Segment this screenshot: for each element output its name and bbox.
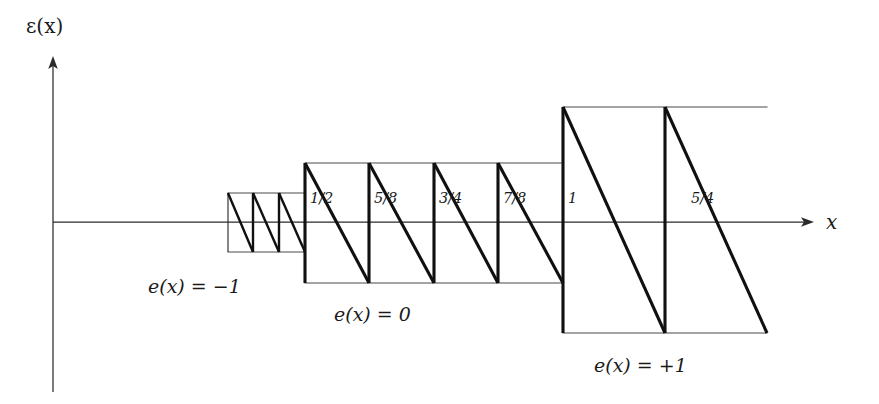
sawtooth-binade-plus-1 (563, 107, 767, 333)
figure-container: ε(x) x 1/2 5/8 3/4 7/8 1 5/4 e(x) = −1 e… (0, 0, 879, 404)
tick-label-5-4: 5/4 (691, 191, 714, 206)
tooth-zero-c (434, 163, 498, 283)
tick-label-3-4: 3/4 (439, 191, 462, 206)
axes-group (48, 56, 814, 392)
tick-label-1: 1 (568, 191, 577, 206)
tooth-plus1-b (665, 107, 767, 333)
tooth-zero-a (305, 163, 369, 283)
tooth-zero-b (369, 163, 434, 283)
tooth-plus1-a (563, 107, 665, 333)
y-axis-title: ε(x) (26, 16, 63, 36)
sawtooth-binade-zero (305, 163, 563, 283)
region-label-minus-1: e(x) = −1 (148, 277, 241, 296)
tick-label-7-8: 7/8 (503, 191, 526, 206)
breakpoint-stems-group (228, 107, 665, 333)
tick-label-1-2: 1/2 (310, 191, 333, 206)
region-label-zero: e(x) = 0 (334, 305, 411, 324)
x-axis-title: x (826, 212, 837, 232)
tooth-zero-d (498, 163, 563, 283)
region-label-plus-1: e(x) = +1 (594, 356, 687, 375)
tick-label-5-8: 5/8 (374, 191, 397, 206)
